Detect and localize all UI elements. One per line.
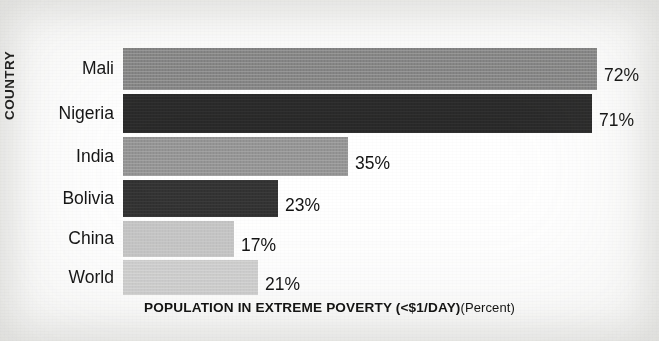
- bar-bolivia: [123, 180, 278, 217]
- value-label-nigeria: 71%: [599, 110, 634, 131]
- plot-area: Mali72%Nigeria71%India35%Bolivia23%China…: [0, 0, 659, 341]
- category-label-nigeria: Nigeria: [0, 103, 114, 124]
- value-label-china: 17%: [241, 235, 276, 256]
- poverty-bar-chart: COUNTRY Mali72%Nigeria71%India35%Bolivia…: [0, 0, 659, 341]
- bar-nigeria: [123, 94, 592, 133]
- category-label-china: China: [0, 228, 114, 249]
- category-label-mali: Mali: [0, 58, 114, 79]
- x-axis-title-unit: (Percent): [461, 300, 515, 315]
- value-label-world: 21%: [265, 274, 300, 295]
- value-label-india: 35%: [355, 153, 390, 174]
- value-label-mali: 72%: [604, 65, 639, 86]
- bar-india: [123, 137, 348, 176]
- value-label-bolivia: 23%: [285, 195, 320, 216]
- bar-china: [123, 221, 234, 257]
- bar-mali: [123, 48, 597, 90]
- category-label-bolivia: Bolivia: [0, 188, 114, 209]
- x-axis-title-main: POPULATION IN EXTREME POVERTY (<$1/DAY): [144, 300, 460, 315]
- category-label-india: India: [0, 146, 114, 167]
- x-axis-title: POPULATION IN EXTREME POVERTY (<$1/DAY)(…: [0, 298, 659, 316]
- bar-world: [123, 260, 258, 295]
- category-label-world: World: [0, 267, 114, 288]
